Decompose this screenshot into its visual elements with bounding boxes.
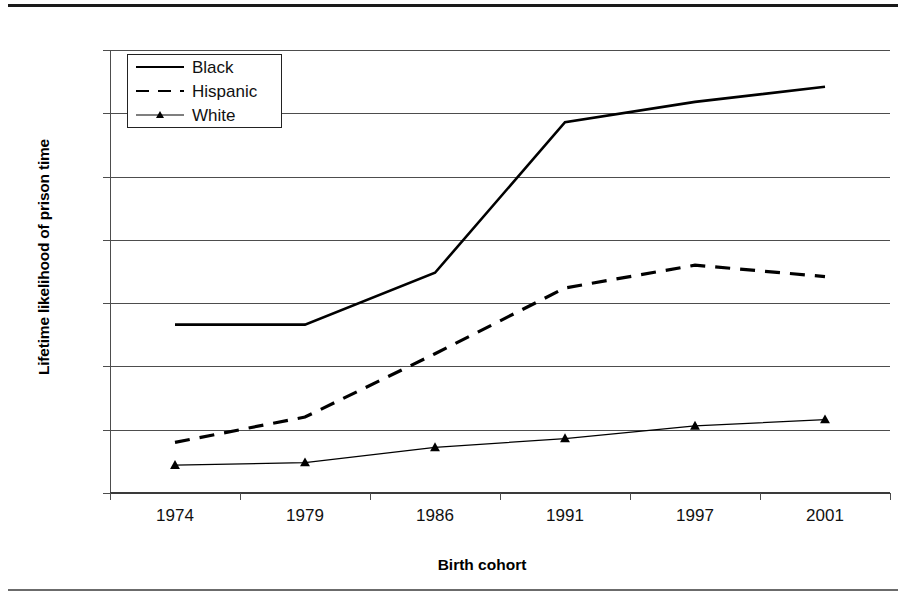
- x-axis-title: Birth cohort: [0, 556, 906, 574]
- bottom-divider-rule: [8, 589, 898, 591]
- x-tick-label: 1997: [635, 506, 755, 526]
- x-tick-mark: [240, 493, 241, 500]
- x-tick-mark: [760, 493, 761, 500]
- y-tick-mark: [103, 493, 110, 494]
- y-tick-mark: [103, 177, 110, 178]
- y-tick-mark: [103, 240, 110, 241]
- series-line-hispanic: [175, 265, 825, 442]
- y-tick-mark: [103, 113, 110, 114]
- x-tick-mark: [500, 493, 501, 500]
- top-divider-rule: [8, 4, 898, 7]
- x-tick-label: 1974: [115, 506, 235, 526]
- x-tick-mark: [110, 493, 111, 500]
- y-tick-mark: [103, 303, 110, 304]
- series-marker-triangle: [170, 460, 180, 469]
- legend-item-black: Black: [128, 55, 281, 79]
- x-tick-mark: [630, 493, 631, 500]
- chart-legend: Black Hispanic White: [127, 54, 282, 128]
- x-tick-label: 2001: [765, 506, 885, 526]
- y-tick-mark: [103, 50, 110, 51]
- series-marker-triangle: [820, 414, 830, 423]
- legend-label-black: Black: [186, 59, 234, 76]
- y-tick-mark: [103, 366, 110, 367]
- figure-container: Lifetime likelihood of prison time Birth…: [0, 0, 906, 605]
- x-tick-label: 1979: [245, 506, 365, 526]
- x-axis-title-text: Birth cohort: [438, 556, 527, 573]
- legend-label-hispanic: Hispanic: [186, 83, 257, 100]
- legend-key-triangle-marker-line-icon: [134, 105, 186, 125]
- legend-key-solid-line-icon: [134, 57, 186, 77]
- x-tick-label: 1991: [505, 506, 625, 526]
- x-tick-mark: [370, 493, 371, 500]
- y-tick-mark: [103, 430, 110, 431]
- x-tick-mark: [890, 493, 891, 500]
- legend-key-dashed-line-icon: [134, 81, 186, 101]
- series-line-white: [175, 420, 825, 466]
- legend-item-hispanic: Hispanic: [128, 79, 281, 103]
- y-axis-title: Lifetime likelihood of prison time: [35, 37, 53, 477]
- legend-item-white: White: [128, 103, 281, 127]
- x-tick-label: 1986: [375, 506, 495, 526]
- legend-label-white: White: [186, 107, 235, 124]
